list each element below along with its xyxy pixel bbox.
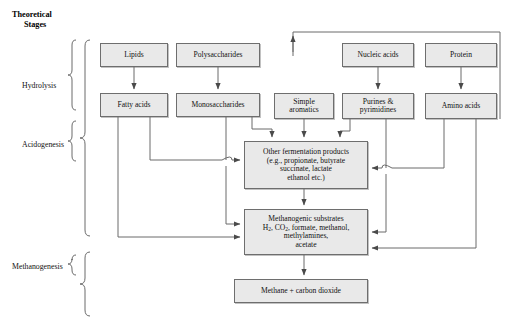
node-polysaccharides-label: Polysaccharides xyxy=(192,51,245,60)
node-fermentation-products-line4: ethanol etc.) xyxy=(287,173,325,182)
node-monosaccharides[interactable]: Monosaccharides xyxy=(176,93,260,117)
arrow-amino-acids-to-fermentation xyxy=(372,119,444,168)
arrow-monosaccharides-to-methanogenic xyxy=(226,117,240,224)
arrow-fatty-acids-to-fermentation xyxy=(150,117,240,160)
node-nucleic-acids[interactable]: Nucleic acids xyxy=(342,43,414,67)
node-amino-acids-label: Amino acids xyxy=(440,102,483,111)
node-fatty-acids[interactable]: Fatty acids xyxy=(100,93,168,117)
stage-label-methanogenesis: Methanogenesis xyxy=(12,262,63,271)
node-monosaccharides-label: Monosaccharides xyxy=(189,101,246,110)
brace-hydrolysis xyxy=(68,40,76,110)
node-lipids[interactable]: Lipids xyxy=(100,43,168,67)
page-title: Theoretical Stages xyxy=(12,10,52,30)
arrow-monosaccharides-to-fermentation xyxy=(252,117,272,137)
brace-methanogenesis-small xyxy=(68,255,76,275)
page-title-line2: Stages xyxy=(12,20,46,30)
arrow-purines-to-fermentation xyxy=(340,119,350,137)
node-methanogenic-substrates[interactable]: Methanogenic substrates H2, CO2, formate… xyxy=(244,209,368,255)
node-amino-acids[interactable]: Amino acids xyxy=(425,93,497,119)
arrow-amino-acids-to-methanogenic xyxy=(372,119,476,248)
node-fatty-acids-label: Fatty acids xyxy=(115,101,152,110)
node-protein-label: Protein xyxy=(448,51,474,60)
brace-column-upper xyxy=(80,40,90,236)
node-nucleic-acids-label: Nucleic acids xyxy=(355,51,400,60)
node-fermentation-products[interactable]: Other fermentation products (e.g., propi… xyxy=(244,141,368,189)
node-purines-pyrimidines[interactable]: Purines & pyrimidines xyxy=(342,93,414,119)
arrow-fatty-acids-to-methanogenic xyxy=(118,117,240,237)
node-simple-aromatics[interactable]: Simple aromatics xyxy=(274,93,334,119)
node-simple-aromatics-line2: aromatics xyxy=(289,105,319,114)
node-polysaccharides[interactable]: Polysaccharides xyxy=(176,43,260,67)
node-methane-label: Methane + carbon dioxide xyxy=(259,287,343,296)
brace-acidogenesis-small xyxy=(68,121,76,161)
brace-column-lower xyxy=(80,252,90,316)
stage-label-acidogenesis: Acidogenesis xyxy=(22,140,64,149)
arrow-purines-to-methanogenic xyxy=(372,119,386,232)
diagram-canvas: Theoretical Stages Hydrolysis Acidogenes… xyxy=(0,0,512,323)
page-title-line1: Theoretical xyxy=(12,10,52,19)
node-lipids-label: Lipids xyxy=(122,51,145,60)
node-methane[interactable]: Methane + carbon dioxide xyxy=(234,279,368,303)
stage-label-hydrolysis: Hydrolysis xyxy=(22,81,56,90)
node-purines-pyrimidines-line2: pyrimidines xyxy=(360,105,396,114)
node-protein[interactable]: Protein xyxy=(425,43,497,67)
node-methanogenic-substrates-line4: acetate xyxy=(295,240,316,249)
